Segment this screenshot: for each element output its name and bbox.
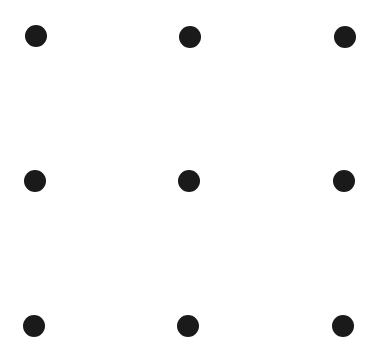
grid-dot-r1-c2 [333, 170, 355, 192]
grid-dot-r2-c0 [23, 315, 45, 337]
grid-dot-r2-c1 [177, 315, 199, 337]
grid-dot-r1-c0 [24, 170, 46, 192]
grid-dot-r0-c1 [179, 26, 201, 48]
grid-dot-r1-c1 [178, 170, 200, 192]
grid-dot-r0-c0 [25, 25, 47, 47]
grid-dot-r0-c2 [334, 26, 356, 48]
dot-grid-canvas [0, 0, 380, 361]
grid-dot-r2-c2 [332, 315, 354, 337]
